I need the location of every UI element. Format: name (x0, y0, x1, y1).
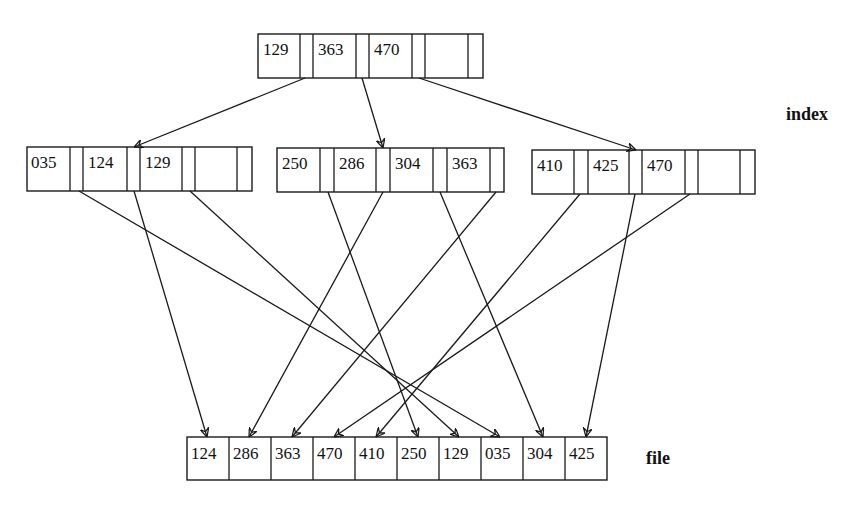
root-key-3: 470 (374, 40, 400, 59)
root-pointers (134, 78, 636, 150)
file-record-4: 470 (317, 444, 343, 463)
pointer-arrow-icon (249, 192, 383, 437)
leaf-node-1: 035 124 129 (27, 147, 252, 191)
pointer-arrow-icon (292, 192, 496, 437)
leaf-pointers (79, 191, 690, 437)
root-key-1: 129 (263, 40, 289, 59)
pointer-arrow-icon (376, 194, 580, 437)
leaf-2-key-2: 286 (339, 154, 365, 173)
pointer-arrow-icon (334, 194, 690, 437)
leaf-3-key-3: 470 (647, 156, 673, 175)
pointer-arrow-icon (190, 191, 459, 437)
file-record-8: 035 (485, 444, 511, 463)
pointer-arrow-icon (134, 191, 207, 437)
leaf-2-key-4: 363 (452, 154, 478, 173)
root-node-frame (258, 34, 483, 78)
leaf-1-key-3: 129 (145, 153, 171, 172)
pointer-arrow-icon (440, 192, 543, 437)
leaf-1-key-2: 124 (88, 153, 114, 172)
file-record-7: 129 (443, 444, 469, 463)
file-record-2: 286 (233, 444, 259, 463)
file-record-3: 363 (275, 444, 301, 463)
pointer-arrow-icon (419, 78, 636, 150)
pointer-arrow-icon (79, 191, 500, 437)
pointer-arrow-icon (328, 192, 418, 437)
leaf-node-3: 410 425 470 (532, 150, 755, 194)
leaf-node-3-frame (532, 150, 755, 194)
pointer-arrow-icon (362, 78, 383, 148)
index-file-diagram: 129 363 470 035 124 129 250 286 304 363 (0, 0, 859, 506)
file-record-10: 425 (569, 444, 595, 463)
file-records: 124 286 363 470 410 250 129 035 304 425 (187, 437, 607, 480)
leaf-node-2: 250 286 304 363 (277, 148, 504, 192)
root-node: 129 363 470 (258, 34, 483, 78)
leaf-1-key-1: 035 (31, 153, 57, 172)
file-record-1: 124 (191, 444, 217, 463)
root-key-2: 363 (318, 40, 344, 59)
file-label: file (646, 448, 670, 468)
file-record-5: 410 (359, 444, 385, 463)
leaf-3-key-2: 425 (593, 156, 619, 175)
file-record-6: 250 (401, 444, 427, 463)
leaf-2-key-3: 304 (395, 154, 421, 173)
index-label: index (786, 104, 828, 124)
pointer-arrow-icon (134, 78, 305, 147)
leaf-3-key-1: 410 (537, 156, 563, 175)
pointer-arrow-icon (586, 194, 635, 437)
file-record-9: 304 (527, 444, 553, 463)
leaf-2-key-1: 250 (282, 154, 308, 173)
